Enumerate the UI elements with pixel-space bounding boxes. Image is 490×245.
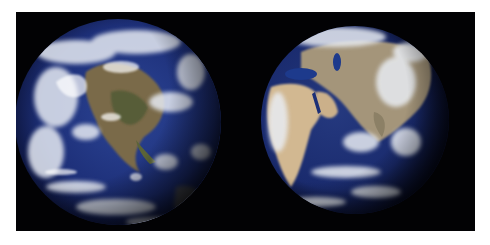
image-frame <box>16 12 475 231</box>
earth-western-hemisphere <box>16 19 221 227</box>
earth-views <box>16 12 475 231</box>
earth-eastern-hemisphere <box>261 26 449 214</box>
